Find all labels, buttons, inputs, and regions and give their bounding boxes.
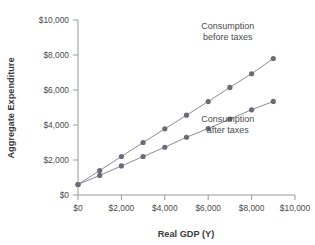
x-tick-label: $0 — [73, 203, 83, 213]
annotation-line: Consumption — [201, 114, 254, 124]
y-tick-label: $10,000 — [39, 15, 70, 25]
data-point — [97, 168, 102, 173]
data-point — [184, 113, 189, 118]
x-tick-label: $2,000 — [109, 203, 135, 213]
x-axis-group: $0$2,000$4,000$6,000$8,000$10,000 — [73, 195, 310, 213]
data-point — [162, 145, 167, 150]
annotation-line: before taxes — [203, 32, 253, 42]
x-tick-label: $10,000 — [280, 203, 311, 213]
annotation-layer: Consumptionbefore taxesConsumptionafter … — [201, 21, 254, 136]
data-point — [206, 99, 211, 104]
y-tick-label: $8,000 — [43, 50, 69, 60]
annotation-before-taxes: Consumptionbefore taxes — [201, 21, 254, 42]
x-tick-label: $8,000 — [239, 203, 265, 213]
data-point — [249, 71, 254, 76]
annotation-line: Consumption — [201, 21, 254, 31]
data-point — [97, 173, 102, 178]
x-tick-label: $6,000 — [195, 203, 221, 213]
data-point — [271, 99, 276, 104]
data-point — [75, 182, 80, 187]
x-tick-label: $4,000 — [152, 203, 178, 213]
data-point — [141, 154, 146, 159]
aggregate-expenditure-chart: $0$2,000$4,000$6,000$8,000$10,000 $0$2,0… — [0, 0, 315, 245]
data-point — [119, 163, 124, 168]
data-point — [249, 107, 254, 112]
y-tick-label: $2,000 — [43, 155, 69, 165]
data-point — [141, 140, 146, 145]
y-tick-label: $4,000 — [43, 120, 69, 130]
data-point — [184, 135, 189, 140]
data-point — [162, 126, 167, 131]
y-tick-label: $0 — [60, 190, 70, 200]
y-axis-ticks — [73, 20, 78, 195]
chart-canvas: $0$2,000$4,000$6,000$8,000$10,000 $0$2,0… — [0, 0, 315, 245]
data-series — [75, 99, 276, 187]
data-point — [119, 154, 124, 159]
annotation-after-taxes: Consumptionafter taxes — [201, 114, 254, 135]
x-axis-ticks — [78, 195, 295, 200]
y-axis-title: Aggregate Expenditure — [6, 57, 16, 158]
y-tick-label: $6,000 — [43, 85, 69, 95]
data-point — [271, 56, 276, 61]
x-axis-title: Real GDP (Y) — [158, 229, 215, 239]
y-axis-tick-labels: $0$2,000$4,000$6,000$8,000$10,000 — [39, 15, 70, 200]
data-point — [227, 85, 232, 90]
x-axis-tick-labels: $0$2,000$4,000$6,000$8,000$10,000 — [73, 203, 310, 213]
y-axis-group: $0$2,000$4,000$6,000$8,000$10,000 — [39, 15, 78, 200]
annotation-line: after taxes — [207, 125, 250, 135]
